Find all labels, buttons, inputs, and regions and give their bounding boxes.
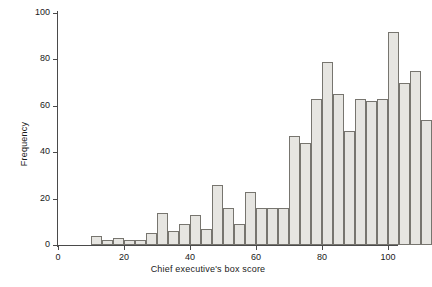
- x-tick-label: 100: [381, 252, 396, 262]
- x-tick-mark: [190, 246, 191, 250]
- y-tick-label: 40: [40, 146, 50, 156]
- histogram-bar: [322, 62, 333, 245]
- histogram-bar: [157, 213, 168, 245]
- y-tick-mark: [53, 245, 57, 246]
- histogram-bar: [377, 99, 388, 245]
- histogram-bar: [300, 143, 311, 245]
- y-tick-mark: [53, 152, 57, 153]
- x-tick-label: 80: [317, 252, 327, 262]
- y-tick-mark: [53, 106, 57, 107]
- x-tick: 60: [256, 245, 257, 246]
- x-tick: 80: [322, 245, 323, 246]
- histogram-bar: [124, 240, 135, 245]
- histogram-bar: [113, 238, 124, 245]
- histogram-bar: [289, 136, 300, 245]
- x-axis-label: Chief executive's box score: [0, 264, 416, 274]
- y-tick-mark: [53, 59, 57, 60]
- histogram-bar: [234, 224, 245, 245]
- y-tick-mark: [53, 199, 57, 200]
- x-tick-label: 40: [185, 252, 195, 262]
- x-tick-label: 0: [55, 252, 60, 262]
- histogram-bar: [333, 94, 344, 245]
- histogram-bar: [421, 120, 432, 245]
- y-tick-label: 60: [40, 100, 50, 110]
- x-tick-label: 20: [119, 252, 129, 262]
- x-axis-line: [57, 245, 398, 246]
- histogram-bar: [410, 71, 421, 245]
- histogram-bar: [190, 215, 201, 245]
- y-tick-label: 0: [45, 239, 50, 249]
- histogram-bar: [146, 233, 157, 245]
- y-tick-label: 80: [40, 53, 50, 63]
- x-tick-mark: [322, 246, 323, 250]
- histogram-bar: [212, 185, 223, 245]
- histogram-bar: [366, 101, 377, 245]
- x-tick-label: 60: [251, 252, 261, 262]
- histogram-bar: [311, 99, 322, 245]
- x-tick: 100: [388, 245, 389, 246]
- histogram-bar: [223, 208, 234, 245]
- x-tick-mark: [388, 246, 389, 250]
- histogram-bar: [399, 83, 410, 245]
- histogram-bar: [344, 131, 355, 245]
- x-tick-mark: [124, 246, 125, 250]
- histogram-bar: [102, 240, 113, 245]
- histogram-bar: [179, 224, 190, 245]
- y-tick-mark: [53, 13, 57, 14]
- histogram-bar: [278, 208, 289, 245]
- histogram-bar: [256, 208, 267, 245]
- histogram-bars: [58, 13, 398, 245]
- x-tick: 20: [124, 245, 125, 246]
- histogram-bar: [91, 236, 102, 245]
- histogram-bar: [135, 240, 146, 245]
- x-tick: 40: [190, 245, 191, 246]
- x-tick-mark: [256, 246, 257, 250]
- histogram-bar: [201, 229, 212, 245]
- histogram-bar: [388, 32, 399, 245]
- histogram-bar: [245, 192, 256, 245]
- x-tick-mark: [58, 246, 59, 250]
- x-tick: 0: [58, 245, 59, 246]
- histogram-bar: [267, 208, 278, 245]
- y-axis-label: Frequency: [19, 121, 29, 165]
- y-tick-label: 20: [40, 193, 50, 203]
- y-tick-label: 100: [35, 7, 50, 17]
- histogram-bar: [355, 99, 366, 245]
- histogram-bar: [168, 231, 179, 245]
